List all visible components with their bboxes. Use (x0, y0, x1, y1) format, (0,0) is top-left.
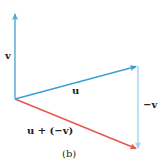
vector-sum-arrow (15, 99, 136, 149)
vector-diagram (0, 0, 166, 167)
caption-b: (b) (62, 149, 76, 159)
label-u: u (72, 86, 79, 96)
label-v: v (5, 51, 11, 61)
label-neg-v: −v (143, 100, 157, 110)
label-u-plus-neg-v: u + (−v) (27, 126, 73, 136)
